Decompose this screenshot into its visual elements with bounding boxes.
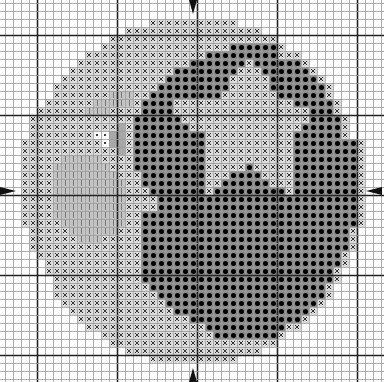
grid-lines bbox=[0, 0, 384, 382]
cross-stitch-chart bbox=[0, 0, 384, 382]
center-marker-left-icon bbox=[0, 187, 16, 195]
center-marker-bottom-icon bbox=[189, 368, 197, 382]
center-marker-top-icon bbox=[189, 0, 197, 14]
center-marker-right-icon bbox=[366, 187, 382, 195]
